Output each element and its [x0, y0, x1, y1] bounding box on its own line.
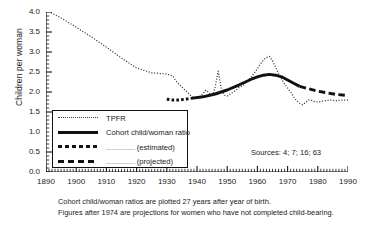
y-tick-3-5: 3.5 [14, 27, 40, 36]
legend-item-3: ................ (estimated) [53, 140, 187, 155]
caption-line-2: Figures after 1974 are projections for w… [58, 208, 368, 219]
y-tick-0-0: 0.0 [14, 167, 40, 176]
legend-swatch-2 [58, 128, 100, 138]
legend-label-4: ................ (projected) [106, 157, 173, 166]
sources-note: Sources: 4; 7; 16; 63 [251, 148, 321, 157]
x-tick-1990: 1990 [331, 177, 365, 186]
legend-swatch-3 [58, 142, 100, 152]
legend-label-text: Cohort child/woman ratio [106, 128, 190, 137]
chart-legend: TPFRCohort child/woman ratio............… [52, 110, 188, 168]
legend-line-sample [58, 131, 98, 134]
x-tick-1960: 1960 [240, 177, 274, 186]
series-1-path [46, 12, 348, 105]
x-tick-1900: 1900 [59, 177, 93, 186]
legend-item-4: ................ (projected) [53, 155, 187, 170]
x-tick-1970: 1970 [271, 177, 305, 186]
y-tick-3-0: 3.0 [14, 47, 40, 56]
y-tick-2-5: 2.5 [14, 67, 40, 76]
legend-leader-dots: ................ [106, 157, 137, 166]
chart-figure: Children per woman 0.00.51.01.52.02.53.0… [0, 0, 373, 228]
figure-caption: Cohort child/woman ratios are plotted 27… [58, 197, 368, 218]
x-tick-1890: 1890 [29, 177, 63, 186]
series-4-path [300, 86, 345, 95]
legend-label-text: (estimated) [137, 143, 175, 152]
y-tick-4-0: 4.0 [14, 7, 40, 16]
legend-item-1: TPFR [53, 111, 187, 126]
legend-label-2: Cohort child/woman ratio [106, 128, 190, 137]
x-tick-1920: 1920 [120, 177, 154, 186]
x-tick-1910: 1910 [89, 177, 123, 186]
legend-label-text: TPFR [106, 114, 126, 123]
legend-line-sample [58, 160, 98, 163]
y-tick-1-0: 1.0 [14, 127, 40, 136]
x-tick-1980: 1980 [301, 177, 335, 186]
series-3-path [167, 98, 191, 100]
y-tick-2-0: 2.0 [14, 87, 40, 96]
series-2-path [191, 74, 300, 98]
legend-swatch-1 [58, 113, 100, 123]
x-tick-1940: 1940 [180, 177, 214, 186]
legend-item-2: Cohort child/woman ratio [53, 126, 187, 141]
legend-label-text: (projected) [137, 157, 173, 166]
caption-line-1: Cohort child/woman ratios are plotted 27… [58, 197, 368, 208]
y-tick-1-5: 1.5 [14, 107, 40, 116]
data-series-layer [46, 12, 348, 105]
legend-swatch-4 [58, 157, 100, 167]
x-tick-1950: 1950 [210, 177, 244, 186]
legend-line-sample [58, 117, 98, 118]
legend-line-sample [58, 145, 98, 148]
x-tick-1930: 1930 [150, 177, 184, 186]
legend-leader-dots: ................ [106, 143, 137, 152]
y-tick-0-5: 0.5 [14, 147, 40, 156]
legend-label-1: TPFR [106, 114, 126, 123]
legend-label-3: ................ (estimated) [106, 143, 175, 152]
